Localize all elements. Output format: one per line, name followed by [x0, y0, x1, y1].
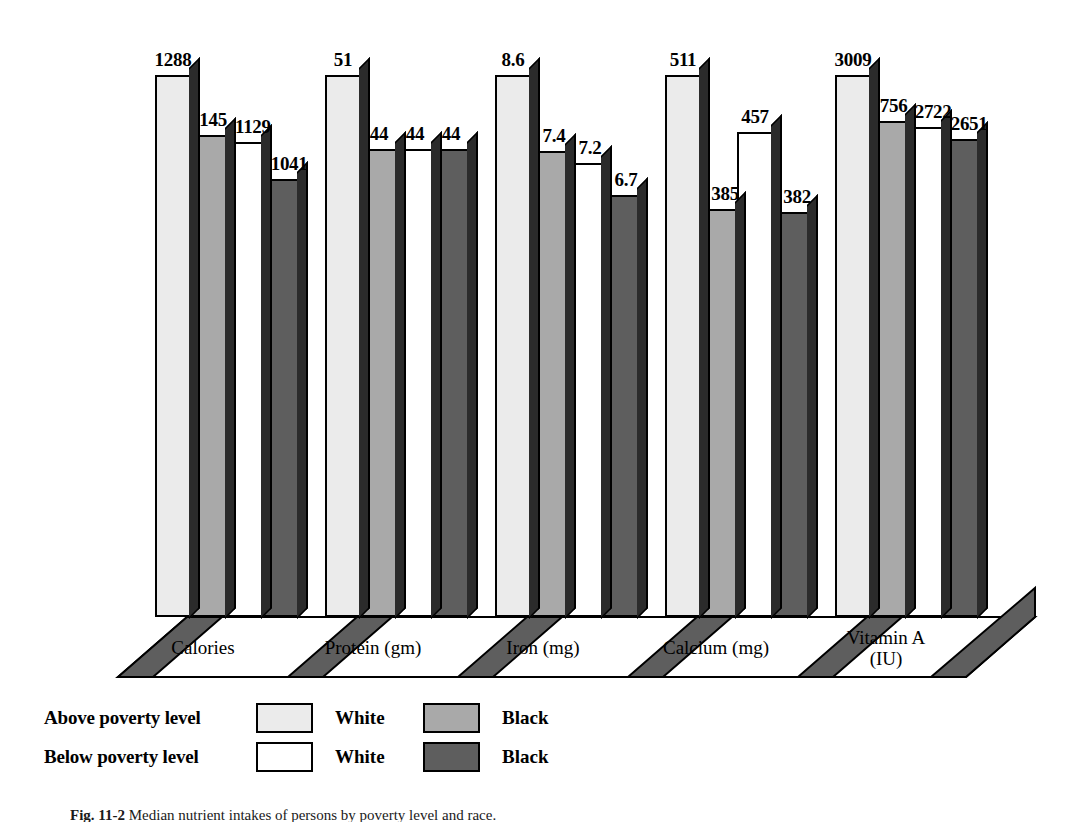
bar-value-label: 8.6 [502, 49, 525, 71]
bar-value-label: 1288 [155, 49, 192, 71]
legend-swatch-below-black[interactable] [423, 742, 480, 772]
category-label-line: (IU) [798, 649, 974, 670]
bar-above-white[interactable] [835, 75, 871, 617]
bar-group: 51 44 44 44 [325, 72, 469, 617]
category-label-line: Vitamin A [798, 628, 974, 649]
legend-row-below-poverty: Below poverty level White Black [44, 737, 664, 776]
category-label-calcium: Calcium (mg) [628, 638, 804, 659]
bar-value-label: 6.7 [615, 169, 638, 191]
legend-row-above-poverty: Above poverty level White Black [44, 698, 664, 737]
legend-swatch-above-black[interactable] [423, 703, 480, 733]
category-label-line: Protein (gm) [288, 638, 458, 659]
legend-swatch-above-white[interactable] [256, 703, 313, 733]
bar-group: 1288 1145 1129 1041 [155, 72, 299, 617]
category-label-calories: Calories [118, 638, 288, 659]
category-label-iron: Iron (mg) [458, 638, 628, 659]
bar-column[interactable]: 8.6 [495, 75, 531, 617]
figure-container: 1288 1145 1129 1041 51 44 [0, 0, 1078, 822]
category-label-line: Calories [118, 638, 288, 659]
legend-row-label: Below poverty level [44, 746, 256, 768]
chart-legend: Above poverty level White Black Below po… [44, 698, 664, 776]
bar-value-label: 7.2 [579, 137, 602, 159]
bar-value-label: 44 [406, 123, 424, 145]
bar-value-label: 51 [334, 49, 352, 71]
figure-caption-text: Median nutrient intakes of persons by po… [129, 807, 496, 822]
chart-plot-area: 1288 1145 1129 1041 51 44 [0, 0, 1078, 690]
bar-group: 511 385 457 382 [665, 72, 809, 617]
category-label-vitamin-a: Vitamin A (IU) [798, 628, 974, 669]
legend-swatch-below-white[interactable] [256, 742, 313, 772]
bar-value-label: 2722 [915, 101, 952, 123]
bar-above-white[interactable] [665, 75, 701, 617]
legend-item-name: Black [480, 707, 590, 729]
bar-value-label: 457 [741, 106, 769, 128]
bar-column[interactable]: 511 [665, 75, 701, 617]
bar-value-label: 1129 [235, 116, 271, 138]
bar-value-label: 44 [370, 123, 388, 145]
bar-value-label: 3009 [835, 49, 872, 71]
bar-column[interactable]: 1288 [155, 75, 191, 617]
bar-group: 8.6 7.4 7.2 6.7 [495, 72, 639, 617]
bar-value-label: 1041 [271, 153, 308, 175]
bar-value-label: 7.4 [543, 125, 566, 147]
legend-item-name: White [313, 746, 423, 768]
bar-group: 3009 2756 2722 2651 [835, 72, 979, 617]
bar-above-white[interactable] [155, 75, 191, 617]
bar-value-label: 382 [783, 186, 811, 208]
legend-item-name: Black [480, 746, 590, 768]
category-label-protein: Protein (gm) [288, 638, 458, 659]
figure-caption: Fig. 11-2 Median nutrient intakes of per… [70, 806, 1010, 822]
bar-column[interactable]: 51 [325, 75, 361, 617]
bar-above-white[interactable] [495, 75, 531, 617]
bar-value-label: 44 [442, 123, 460, 145]
category-label-line: Calcium (mg) [628, 638, 804, 659]
bar-above-white[interactable] [325, 75, 361, 617]
category-label-line: Iron (mg) [458, 638, 628, 659]
bar-value-label: 511 [670, 49, 697, 71]
legend-item-name: White [313, 707, 423, 729]
bar-column[interactable]: 3009 [835, 75, 871, 617]
figure-caption-prefix: Fig. 11-2 [70, 807, 125, 822]
bar-value-label: 385 [711, 183, 739, 205]
legend-row-label: Above poverty level [44, 707, 256, 729]
bar-value-label: 2651 [951, 113, 988, 135]
